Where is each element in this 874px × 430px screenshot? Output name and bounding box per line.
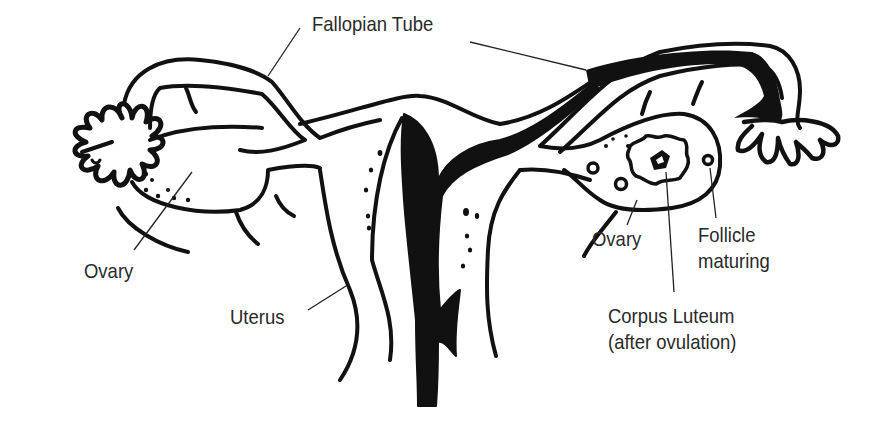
label-follicle-line2: maturing [698, 249, 770, 273]
leader-fallopian-right [470, 42, 586, 70]
right-fimbriae [738, 120, 839, 165]
label-uterus: Uterus [230, 305, 284, 329]
leader-ovary-right [627, 200, 637, 225]
diagram-drawing [0, 0, 874, 430]
label-ovary-right: Ovary [592, 227, 641, 251]
left-ovary [118, 166, 320, 252]
uterine-cavity [402, 82, 598, 406]
leader-follicle [710, 168, 716, 218]
leader-uterus [308, 286, 346, 310]
label-ovary-left: Ovary [84, 259, 133, 283]
label-corpus-luteum-line2: (after ovulation) [608, 330, 736, 354]
label-corpus-luteum-line1: Corpus Luteum [608, 304, 734, 328]
leader-corpus-luteum [666, 172, 674, 292]
label-follicle-line1: Follicle [698, 223, 756, 247]
reproductive-organs-diagram: Fallopian Tube Ovary Uterus Ovary Follic… [0, 0, 874, 430]
label-fallopian-tube: Fallopian Tube [312, 12, 433, 36]
leader-fallopian-left [268, 28, 300, 76]
leader-ovary-left [134, 172, 192, 250]
